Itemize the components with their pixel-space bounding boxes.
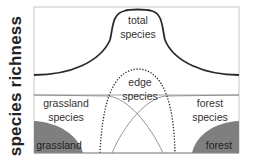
total-species-label-line1: total <box>113 13 163 27</box>
forest-species-label: forest species <box>185 96 235 124</box>
forest-species-label-line1: forest <box>185 96 235 110</box>
total-species-label-line2: species <box>113 27 163 41</box>
grassland-species-label-line1: grassland <box>36 96 96 110</box>
grassland-species-label: grassland species <box>36 96 96 124</box>
forest-species-label-line2: species <box>185 110 235 124</box>
y-axis-label: species richness <box>6 11 26 161</box>
grassland-habitat-label: grassland <box>34 138 84 152</box>
edge-species-label-line1: edge <box>115 75 165 89</box>
edge-species-label: edge species <box>115 75 165 103</box>
grassland-species-label-line2: species <box>36 110 96 124</box>
edge-effect-diagram: species richness total species edge spec… <box>0 0 254 166</box>
total-species-label: total species <box>113 13 163 41</box>
forest-habitat-label: forest <box>200 138 238 152</box>
edge-species-label-line2: species <box>115 89 165 103</box>
